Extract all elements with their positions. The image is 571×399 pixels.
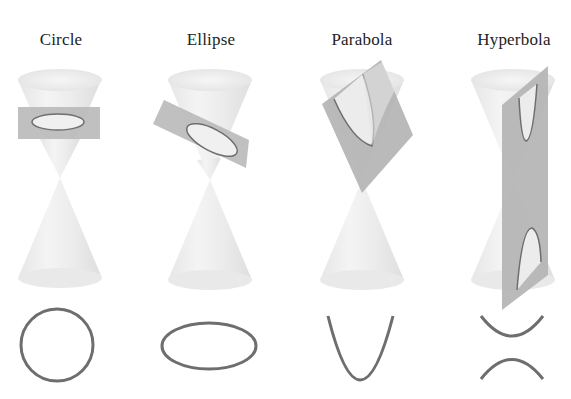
- hyperbola-curve-upper: [481, 316, 543, 336]
- hyperbola-curve-lower: [481, 360, 543, 380]
- double-cone: [18, 69, 102, 288]
- diagram-canvas: [0, 0, 571, 399]
- hyperbola-panel: [471, 66, 555, 379]
- conic-sections-diagram: Circle Ellipse Parabola Hyperbola: [0, 0, 571, 399]
- parabola-curve: [328, 316, 393, 380]
- circle-curve: [21, 309, 93, 381]
- parabola-panel: [320, 60, 413, 380]
- ellipse-curve: [162, 323, 256, 369]
- circle-panel: [18, 69, 102, 381]
- ellipse-panel: [153, 69, 256, 369]
- circle-section: [32, 114, 84, 130]
